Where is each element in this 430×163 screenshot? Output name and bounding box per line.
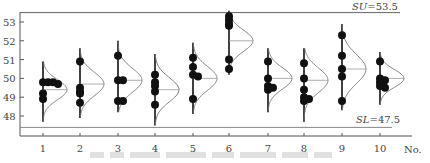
data-point	[225, 22, 233, 30]
data-point	[119, 97, 127, 105]
data-point	[300, 59, 308, 67]
data-point	[151, 88, 159, 96]
data-point	[338, 65, 346, 73]
normal-curve	[80, 48, 104, 117]
y-tick-label: 48	[3, 111, 16, 122]
sample-group-2	[76, 48, 104, 118]
sample-group-5	[189, 43, 217, 114]
data-point	[300, 97, 308, 105]
y-tick-label: 52	[3, 36, 16, 47]
y-tick-label: 53	[3, 17, 16, 28]
sample-group-7	[264, 48, 292, 112]
x-tick-label: 10	[374, 143, 387, 154]
data-point	[376, 57, 384, 65]
sample-group-1	[39, 61, 67, 121]
data-point	[189, 63, 197, 71]
sample-group-6	[225, 11, 253, 75]
data-point	[381, 84, 389, 92]
data-point	[338, 97, 346, 105]
sample-group-9	[338, 24, 366, 110]
data-point	[151, 101, 159, 109]
x-tick-label: 9	[339, 143, 345, 154]
normal-curve	[43, 62, 67, 122]
lower-spec-limit-label: SL=47.5	[356, 114, 400, 125]
x-tick-label: 2	[77, 143, 83, 154]
figure-caption	[90, 152, 332, 160]
data-point	[189, 95, 197, 103]
y-tick-label: 50	[3, 73, 16, 84]
data-point	[338, 52, 346, 60]
normal-curve	[304, 48, 328, 121]
data-point	[76, 89, 84, 97]
sample-group-3	[114, 41, 142, 112]
data-point	[76, 99, 84, 107]
data-point	[119, 76, 127, 84]
axes: 48495051525312345678910	[3, 12, 412, 154]
data-point	[300, 74, 308, 82]
dot-plot-chart: 48495051525312345678910 No. SU=53.5 SL=4…	[0, 0, 430, 163]
data-point	[225, 65, 233, 73]
data-point	[189, 54, 197, 62]
sample-group-10	[376, 52, 404, 105]
normal-curve	[268, 48, 292, 111]
data-point	[76, 57, 84, 65]
y-tick-label: 51	[3, 55, 16, 66]
data-point	[114, 52, 122, 60]
sample-groups	[39, 11, 404, 126]
data-point	[264, 86, 272, 94]
x-tick-label: 1	[40, 143, 46, 154]
data-point	[54, 80, 62, 88]
data-point	[194, 73, 202, 81]
data-point	[300, 86, 308, 94]
sample-group-4	[151, 54, 179, 125]
upper-spec-limit-label: SU=53.5	[352, 1, 398, 12]
data-point	[225, 56, 233, 64]
y-tick-label: 49	[3, 92, 16, 103]
data-point	[264, 57, 272, 65]
data-point	[338, 73, 346, 81]
x-axis-label: No.	[404, 144, 422, 155]
data-point	[338, 31, 346, 39]
normal-curve	[342, 24, 366, 110]
data-point	[151, 71, 159, 79]
data-point	[39, 95, 47, 103]
data-point	[264, 74, 272, 82]
sample-group-8	[300, 48, 328, 121]
